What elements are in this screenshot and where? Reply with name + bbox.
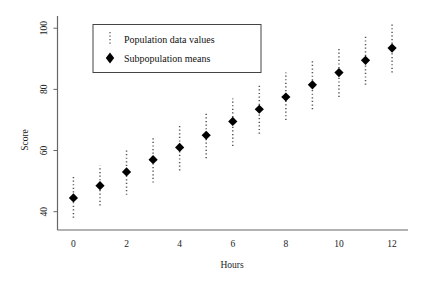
legend-label-subpopulation-means: Subpopulation means — [124, 53, 210, 64]
scatter-plot-svg: 406080100 024681012 Score Hours Populati… — [0, 0, 422, 282]
x-tick-label: 12 — [387, 239, 397, 249]
legend-box — [93, 25, 261, 73]
legend-item-population-data-values: Population data values — [110, 32, 215, 45]
y-tick-label: 100 — [39, 21, 49, 35]
y-tick-label: 40 — [39, 207, 49, 217]
legend-label-population-data-values: Population data values — [124, 34, 215, 45]
y-axis-title: Score — [20, 129, 30, 151]
legend: Population data values Subpopulation mea… — [93, 25, 261, 73]
x-tick-label: 0 — [71, 239, 76, 249]
x-tick-label: 4 — [177, 239, 182, 249]
y-tick-label: 60 — [39, 146, 49, 156]
x-tick-label: 6 — [230, 239, 235, 249]
x-tick-label: 10 — [334, 239, 344, 249]
x-tick-label: 2 — [124, 239, 129, 249]
y-tick-label: 80 — [39, 84, 49, 94]
x-tick-label: 8 — [283, 239, 288, 249]
x-axis-title: Hours — [220, 260, 244, 270]
chart-container: 406080100 024681012 Score Hours Populati… — [0, 0, 422, 282]
